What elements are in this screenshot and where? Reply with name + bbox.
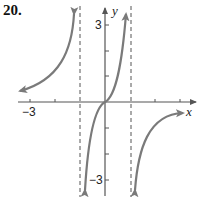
curve-right-branch: [135, 113, 183, 190]
curve-left-branch: [20, 14, 74, 91]
x-axis-label: x: [186, 104, 192, 120]
y-tick-label-3: 3: [95, 18, 102, 32]
x-tick-label-neg3: −3: [22, 105, 36, 119]
y-tick-label-neg3: −3: [89, 173, 103, 187]
y-axis-label: y: [112, 3, 118, 19]
